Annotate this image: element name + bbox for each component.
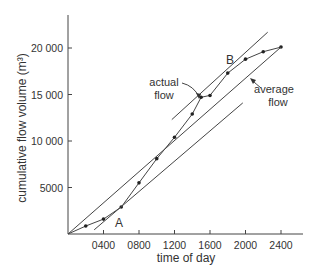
point-a-label: A — [115, 216, 123, 230]
y-tick-label: 5000 — [40, 182, 64, 194]
flow-chart: 040008001200160020002400 500010 00015 00… — [0, 0, 322, 273]
data-point — [173, 135, 177, 139]
x-tick-label: 1200 — [163, 239, 187, 251]
average-flow-label: average — [254, 83, 294, 95]
x-tick-label: 1600 — [198, 239, 222, 251]
y-ticks: 500010 00015 00020 000 — [31, 42, 72, 194]
y-tick-label: 10 000 — [31, 135, 63, 147]
y-tick-label: 15 000 — [31, 89, 63, 101]
data-point — [226, 71, 230, 75]
data-point — [244, 57, 248, 61]
x-ticks: 040008001200160020002400 — [92, 230, 293, 251]
data-point — [190, 112, 194, 116]
actual-flow-label: actual — [149, 76, 178, 88]
x-tick-label: 2400 — [269, 239, 293, 251]
point-b-label: B — [226, 53, 234, 67]
y-axis-title: cumulative flow volume (m³) — [15, 53, 29, 202]
series-layer — [68, 32, 283, 234]
x-axis-title: time of day — [157, 251, 216, 265]
tangent-at-B-line — [172, 32, 268, 119]
data-point — [137, 181, 141, 185]
data-point — [208, 94, 212, 98]
y-tick-label: 20 000 — [31, 42, 63, 54]
average-flow-label-2: flow — [268, 96, 288, 108]
x-tick-label: 0400 — [92, 239, 116, 251]
axes — [68, 15, 303, 234]
actual-flow-label-2: flow — [154, 89, 174, 101]
tangent-at-A-line — [94, 103, 243, 230]
data-point — [261, 50, 265, 54]
x-tick-label: 2000 — [234, 239, 258, 251]
x-tick-label: 0800 — [127, 239, 151, 251]
data-point — [84, 224, 88, 228]
actual-flow-arrow — [182, 83, 199, 97]
